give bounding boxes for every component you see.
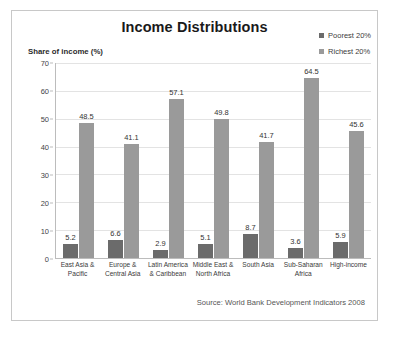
bar-group: 6.641.1: [101, 63, 146, 258]
plot-area: 70 60 50 40 30 20 10 0 5.248.56.641: [31, 63, 371, 273]
y-tick-mark: [50, 174, 53, 175]
bar-group: 3.664.5: [281, 63, 326, 258]
legend-label-richest: Richest 20%: [328, 47, 370, 56]
bar-poorest: 5.1: [198, 244, 213, 258]
bar-value-label: 49.8: [214, 108, 229, 117]
x-axis-label: Europe &Central Asia: [100, 261, 145, 278]
bar-poorest: 5.2: [63, 244, 78, 258]
y-tick-20: 20: [41, 198, 49, 207]
x-axis-label: Middle East &North Africa: [190, 261, 235, 278]
legend-swatch-icon-poorest: [319, 33, 324, 38]
x-axis-label: East Asia &Pacific: [55, 261, 100, 278]
bar-value-label: 6.6: [110, 229, 120, 238]
bar-group: 5.149.8: [191, 63, 236, 258]
x-axis-labels: East Asia &PacificEurope &Central AsiaLa…: [55, 261, 371, 278]
x-axis-label: High-income: [326, 261, 371, 278]
legend-swatch-icon-richest: [319, 49, 324, 54]
x-axis-label: Latin America& Caribbean: [145, 261, 190, 278]
y-axis-label: Share of income (%): [28, 47, 103, 56]
y-tick-40: 40: [41, 142, 49, 151]
x-axis-label: Sub-SaharanAfrica: [281, 261, 326, 278]
bar-group: 5.248.5: [56, 63, 101, 258]
bar-richest: 48.5: [79, 123, 94, 258]
x-axis-label: South Asia: [236, 261, 281, 278]
bar-value-label: 57.1: [169, 88, 184, 97]
bar-value-label: 5.2: [65, 233, 75, 242]
bar-richest: 41.1: [124, 144, 139, 258]
y-tick-mark: [50, 63, 53, 64]
bar-value-label: 2.9: [155, 239, 165, 248]
y-tick-50: 50: [41, 114, 49, 123]
bar-group: 2.957.1: [146, 63, 191, 258]
bar-group: 8.741.7: [236, 63, 281, 258]
legend-item-poorest: Poorest 20%: [319, 31, 371, 40]
y-tick-30: 30: [41, 170, 49, 179]
y-tick-mark: [50, 230, 53, 231]
bar-poorest: 3.6: [288, 248, 303, 258]
bar-poorest: 2.9: [153, 250, 168, 258]
bar-value-label: 8.7: [245, 223, 255, 232]
y-axis: 70 60 50 40 30 20 10 0: [31, 63, 53, 259]
y-tick-mark: [50, 118, 53, 119]
y-tick-70: 70: [41, 59, 49, 68]
y-tick-10: 10: [41, 226, 49, 235]
y-tick-mark: [50, 202, 53, 203]
bar-group: 5.945.6: [326, 63, 371, 258]
bar-groups: 5.248.56.641.12.957.15.149.88.741.73.664…: [56, 63, 371, 258]
bar-value-label: 41.1: [124, 133, 139, 142]
bar-poorest: 6.6: [108, 240, 123, 258]
bar-value-label: 48.5: [79, 112, 94, 121]
y-tick-mark: [50, 90, 53, 91]
bar-richest: 41.7: [259, 142, 274, 258]
legend-item-richest: Richest 20%: [319, 47, 371, 56]
bar-value-label: 5.9: [335, 231, 345, 240]
bar-value-label: 41.7: [259, 131, 274, 140]
source-caption: Source: World Bank Development Indicator…: [197, 298, 365, 307]
bar-value-label: 45.6: [349, 120, 364, 129]
y-tick-0: 0: [45, 255, 49, 264]
bar-richest: 49.8: [214, 119, 229, 258]
plot-canvas: 5.248.56.641.12.957.15.149.88.741.73.664…: [55, 63, 371, 259]
y-tick-60: 60: [41, 86, 49, 95]
chart-card: Income Distributions Poorest 20% Richest…: [11, 10, 378, 321]
legend-label-poorest: Poorest 20%: [328, 31, 371, 40]
bar-value-label: 3.6: [290, 237, 300, 246]
bar-richest: 45.6: [349, 131, 364, 258]
bar-richest: 57.1: [169, 99, 184, 258]
bar-poorest: 5.9: [333, 242, 348, 258]
bar-value-label: 64.5: [304, 67, 319, 76]
bar-poorest: 8.7: [243, 234, 258, 258]
y-tick-mark: [50, 146, 53, 147]
chart-legend: Poorest 20% Richest 20%: [319, 31, 371, 56]
bar-value-label: 5.1: [200, 233, 210, 242]
bar-richest: 64.5: [304, 78, 319, 258]
y-tick-mark: [50, 259, 53, 260]
